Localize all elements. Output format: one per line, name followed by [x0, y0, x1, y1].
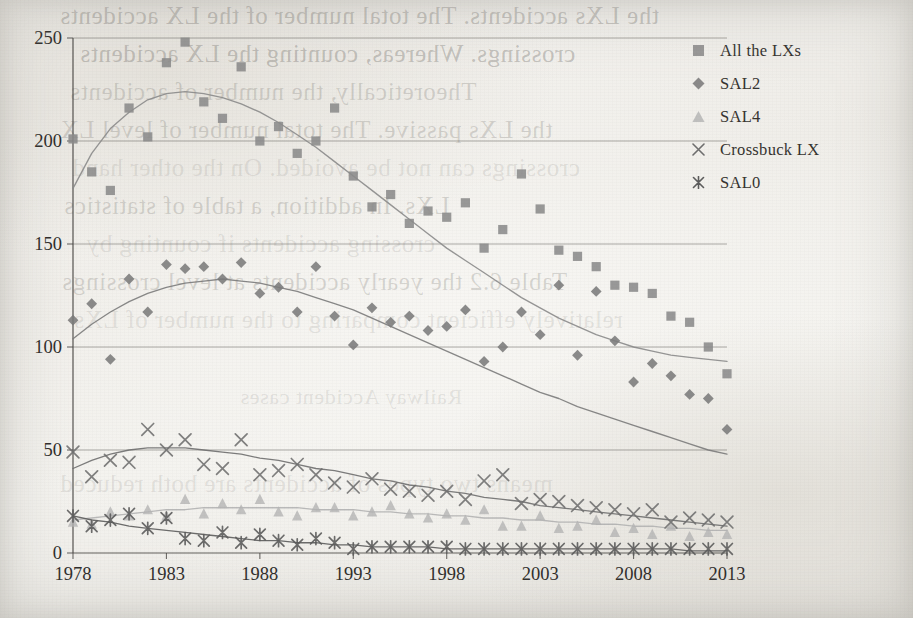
datapoint-all-the-lxs-1987	[237, 62, 246, 71]
datapoint-sal2-1993	[348, 340, 359, 351]
y-axis-label-100: 100	[34, 337, 62, 357]
datapoint-crossbuck-lx-1982	[142, 424, 154, 436]
datapoint-all-the-lxs-2010	[666, 312, 675, 321]
datapoint-sal2-1994	[367, 302, 378, 313]
datapoint-all-the-lxs-1978	[68, 134, 77, 143]
datapoint-sal0-1991	[311, 533, 322, 545]
datapoint-crossbuck-lx-1995	[385, 483, 397, 495]
x-axis-label-1978: 1978	[55, 564, 92, 584]
datapoint-sal2-2009	[647, 358, 658, 369]
x-axis-label-1988: 1988	[241, 564, 278, 584]
datapoint-sal4-1991	[311, 502, 321, 512]
datapoint-sal0-1988	[254, 528, 265, 540]
legend-item-label: SAL0	[720, 173, 761, 193]
datapoint-sal2-1982	[142, 307, 153, 318]
datapoint-all-the-lxs-1999	[461, 198, 470, 207]
datapoint-sal0-1985	[198, 535, 209, 547]
datapoint-sal2-2003	[535, 329, 546, 340]
datapoint-sal0-1987	[236, 537, 247, 549]
legend-item-sal2[interactable]: SAL2	[685, 67, 819, 100]
datapoint-sal0-1980	[105, 514, 116, 526]
x-axis-label-1983: 1983	[148, 564, 185, 584]
datapoint-sal4-2000	[479, 504, 489, 514]
datapoint-sal2-1979	[86, 298, 97, 309]
datapoint-all-the-lxs-1996	[405, 219, 414, 228]
datapoint-crossbuck-lx-1993	[347, 481, 359, 493]
legend-item-sal0[interactable]: SAL0	[685, 166, 819, 199]
datapoint-all-the-lxs-2013	[722, 369, 731, 378]
datapoint-sal4-2001	[498, 521, 508, 531]
datapoint-sal4-1988	[255, 494, 265, 504]
y-axis-label-150: 150	[34, 234, 62, 254]
datapoint-sal4-1985	[199, 508, 209, 518]
datapoint-sal4-2009	[647, 529, 657, 539]
datapoint-all-the-lxs-2009	[648, 289, 657, 298]
datapoint-sal4-1984	[180, 494, 190, 504]
datapoint-sal2-1981	[124, 274, 135, 285]
datapoint-crossbuck-lx-2009	[646, 504, 658, 516]
datapoint-crossbuck-lx-1984	[179, 434, 191, 446]
datapoint-sal2-2008	[628, 377, 639, 388]
datapoint-all-the-lxs-1982	[143, 132, 152, 141]
datapoint-sal2-1988	[254, 288, 265, 299]
datapoint-sal2-1978	[68, 315, 79, 326]
datapoint-sal2-1999	[460, 305, 471, 316]
datapoint-sal4-2012	[703, 527, 713, 537]
trend-curve-sal2	[73, 279, 727, 454]
datapoint-sal0-2012	[703, 543, 714, 555]
datapoint-crossbuck-lx-1996	[403, 485, 415, 497]
datapoint-sal0-1990	[292, 539, 303, 551]
legend-item-crossbuck-lx[interactable]: Crossbuck LX	[685, 133, 819, 166]
datapoint-crossbuck-lx-1992	[329, 477, 341, 489]
x-axis-label-2013: 2013	[709, 564, 746, 584]
datapoint-all-the-lxs-1995	[386, 190, 395, 199]
datapoint-sal2-2002	[516, 307, 527, 318]
datapoint-crossbuck-lx-2001	[497, 469, 509, 481]
datapoint-sal4-2008	[628, 523, 638, 533]
datapoint-crossbuck-lx-1987	[235, 434, 247, 446]
datapoint-sal2-1987	[236, 257, 247, 268]
datapoint-all-the-lxs-1992	[330, 103, 339, 112]
datapoint-crossbuck-lx-2000	[478, 475, 490, 487]
datapoint-sal4-2004	[554, 523, 564, 533]
datapoint-crossbuck-lx-1990	[291, 459, 303, 471]
datapoint-sal4-1990	[292, 510, 302, 520]
datapoint-crossbuck-lx-1997	[422, 489, 434, 501]
datapoint-crossbuck-lx-1991	[310, 469, 322, 481]
datapoint-sal2-1990	[292, 307, 303, 318]
x-axis-label-1998: 1998	[428, 564, 465, 584]
datapoint-sal4-1987	[236, 504, 246, 514]
datapoint-sal0-1978	[68, 510, 79, 522]
datapoint-sal4-2011	[684, 531, 694, 541]
datapoint-sal0-1993	[348, 543, 359, 555]
datapoint-all-the-lxs-1990	[293, 149, 302, 158]
legend-item-label: Crossbuck LX	[720, 140, 819, 160]
datapoint-sal4-2003	[535, 510, 545, 520]
datapoint-sal2-1984	[180, 263, 191, 274]
datapoint-sal2-1996	[404, 311, 415, 322]
datapoint-crossbuck-lx-1979	[86, 471, 98, 483]
datapoint-all-the-lxs-1998	[442, 213, 451, 222]
datapoint-sal4-1998	[442, 508, 452, 518]
legend-item-sal4[interactable]: SAL4	[685, 100, 819, 133]
datapoint-all-the-lxs-1993	[349, 171, 358, 180]
diamond-marker-icon	[685, 75, 711, 93]
legend-item-label: SAL2	[720, 74, 761, 94]
datapoint-sal4-1993	[348, 510, 358, 520]
datapoint-sal2-1998	[441, 321, 452, 332]
datapoint-sal2-2010	[666, 370, 677, 381]
datapoint-crossbuck-lx-1985	[198, 459, 210, 471]
datapoint-sal2-1985	[198, 261, 209, 272]
x-axis-label-2008: 2008	[615, 564, 652, 584]
datapoint-sal0-2013	[722, 543, 733, 555]
x-axis-label-1993: 1993	[335, 564, 372, 584]
datapoint-crossbuck-lx-1989	[273, 465, 285, 477]
datapoint-sal2-1983	[161, 259, 172, 270]
y-axis-label-50: 50	[44, 440, 63, 460]
x-axis-label-2003: 2003	[522, 564, 559, 584]
datapoint-sal2-1992	[329, 311, 340, 322]
datapoint-all-the-lxs-2003	[536, 204, 545, 213]
datapoint-all-the-lxs-1994	[367, 202, 376, 211]
datapoint-all-the-lxs-1985	[199, 97, 208, 106]
legend-item-all-the-lxs[interactable]: All the LXs	[685, 34, 819, 67]
